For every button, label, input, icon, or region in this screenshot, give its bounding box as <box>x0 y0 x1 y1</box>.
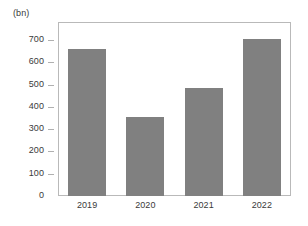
y-axis-tick-mark <box>48 107 54 108</box>
y-axis-unit-label: (bn) <box>13 8 29 18</box>
x-axis-tick-label: 2020 <box>116 200 174 210</box>
x-axis-tick-label: 2022 <box>233 200 291 210</box>
y-axis-tick-mark <box>48 174 54 175</box>
y-axis-tick-label: 300 <box>29 123 44 133</box>
y-axis-tick-label: 500 <box>29 79 44 89</box>
y-axis-tick-label: 200 <box>29 145 44 155</box>
bar <box>68 49 106 196</box>
y-axis-tick-mark <box>48 85 54 86</box>
bar-chart: (bn) 0100200300400500600700 201920202021… <box>0 0 308 226</box>
bars-layer <box>58 22 291 196</box>
bar <box>126 117 164 196</box>
y-axis-tick-label: 700 <box>29 34 44 44</box>
y-axis-tick-mark <box>48 151 54 152</box>
x-axis-tick-label: 2021 <box>175 200 233 210</box>
x-axis: 2019202020212022 <box>58 200 291 216</box>
y-axis-tick-mark <box>48 129 54 130</box>
y-axis-tick-label: 400 <box>29 101 44 111</box>
y-axis-tick-label: 100 <box>29 168 44 178</box>
x-axis-tick-label: 2019 <box>58 200 116 210</box>
y-axis-tick-label: 600 <box>29 56 44 66</box>
bar <box>243 39 281 196</box>
y-axis-tick-label: 0 <box>39 190 44 200</box>
bar <box>185 88 223 196</box>
y-axis-tick-mark <box>48 40 54 41</box>
y-axis-tick-mark <box>48 62 54 63</box>
